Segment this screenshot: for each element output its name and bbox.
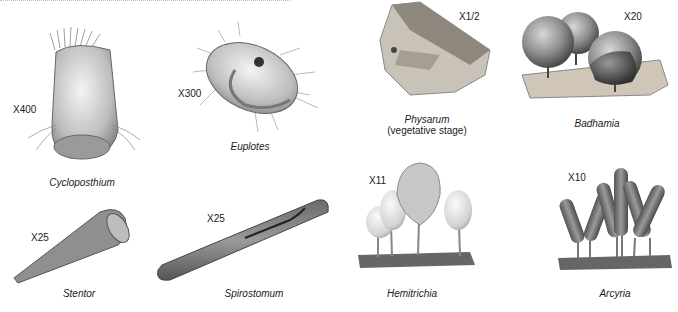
- stentor-illustration: [14, 210, 134, 283]
- species-subtitle-physarum: (vegetative stage): [387, 125, 467, 136]
- badhamia-illustration: [522, 12, 668, 98]
- illustration-canvas: [0, 0, 678, 312]
- euplotes-illustration: [193, 22, 318, 132]
- magnification-label-cycloposthium: X400: [13, 104, 36, 115]
- species-name-spirostomum: Spirostomum: [225, 288, 284, 299]
- species-name-euplotes: Euplotes: [231, 141, 270, 152]
- species-name-stentor: Stentor: [63, 288, 95, 299]
- magnification-label-spirostomum: X25: [207, 213, 225, 224]
- magnification-label-arcyria: X10: [568, 172, 586, 183]
- magnification-label-badhamia: X20: [624, 11, 642, 22]
- species-name-cycloposthium: Cycloposthium: [49, 177, 115, 188]
- species-name-arcyria: Arcyria: [599, 288, 630, 299]
- species-name-hemitrichia: Hemitrichia: [387, 288, 437, 299]
- magnification-label-stentor: X25: [31, 232, 49, 243]
- species-name-badhamia: Badhamia: [574, 118, 619, 129]
- species-name-physarum: Physarum: [404, 114, 449, 125]
- species-caption-physarum: Physarum (vegetative stage): [387, 114, 467, 136]
- magnification-label-euplotes: X300: [178, 88, 201, 99]
- magnification-label-hemitrichia: X11: [369, 175, 386, 186]
- arcyria-illustration: [558, 168, 672, 270]
- magnification-label-physarum: X1/2: [459, 11, 480, 22]
- spirostomum-illustration: [158, 200, 329, 281]
- cycloposthium-illustration: [28, 27, 140, 159]
